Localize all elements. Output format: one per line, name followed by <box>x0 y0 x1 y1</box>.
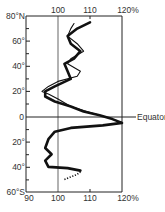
top-tick-100: 100 <box>51 5 65 15</box>
lat-20n: 20° <box>12 86 25 96</box>
thick-curve <box>45 22 122 170</box>
lat-0: 0 <box>19 112 24 122</box>
axes <box>26 16 136 192</box>
top-tick-110: 110 <box>83 5 97 15</box>
bottom-tick-100: 100 <box>51 193 65 203</box>
latitude-profile-chart: 100 110 120% 90 100 110 120% 80°N 60° 40… <box>0 0 165 212</box>
lat-20s: 20° <box>12 137 25 147</box>
bottom-tick-110: 110 <box>83 193 97 203</box>
thin-curve <box>42 24 100 116</box>
lat-80n: 80°N <box>6 11 25 21</box>
lat-60s: 60°S <box>6 187 25 197</box>
lat-40n: 40° <box>12 61 25 71</box>
lat-40s: 40° <box>12 162 25 172</box>
bottom-tick-90: 90 <box>24 193 34 203</box>
dotted-curve <box>64 172 80 180</box>
top-tick-120: 120% <box>117 5 139 15</box>
equator-label: Equator <box>137 112 165 122</box>
bottom-tick-120: 120% <box>117 193 139 203</box>
lat-60n: 60° <box>12 36 25 46</box>
